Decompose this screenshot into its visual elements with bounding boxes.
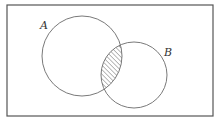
set-b-label: B: [163, 46, 172, 59]
venn-diagram: A B: [0, 0, 221, 122]
set-a-label: A: [39, 19, 48, 32]
